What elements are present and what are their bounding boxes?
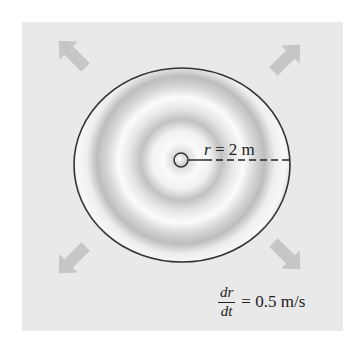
rate-value: 0.5 m/s (255, 292, 305, 312)
radius-variable: r (204, 140, 211, 159)
rate-equals: = (241, 292, 255, 312)
derivative-fraction: dr dt (218, 285, 235, 320)
arrow-up-left-icon (49, 31, 94, 76)
ripple-diagram (0, 0, 360, 341)
derivative-denominator: dt (221, 303, 233, 320)
center-point (174, 153, 188, 167)
derivative-numerator: dr (218, 285, 235, 303)
radius-value: 2 m (229, 140, 255, 159)
arrow-down-right-icon (264, 233, 309, 278)
radius-label: r = 2 m (204, 141, 255, 158)
arrow-down-left-icon (49, 237, 94, 282)
rate-label: dr dt = 0.5 m/s (218, 285, 305, 320)
radius-equals: = (211, 140, 229, 159)
arrow-up-right-icon (264, 35, 309, 80)
